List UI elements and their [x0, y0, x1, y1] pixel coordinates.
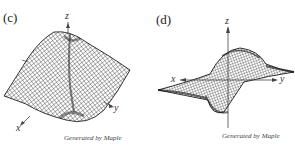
figure-caption: Generated by Maple	[222, 132, 280, 140]
figure-caption: Generated by Maple	[64, 134, 122, 142]
figure-c: (c) z x y Generated by Maple	[0, 0, 148, 146]
mesh-surface	[4, 32, 130, 122]
x-axis-label: x	[16, 122, 20, 133]
surface-plot-c	[0, 0, 148, 146]
x-arrow-icon	[180, 78, 186, 82]
y-axis-label: y	[280, 73, 284, 84]
z-arrow-icon	[66, 23, 70, 28]
y-arrow-icon	[272, 78, 278, 82]
x-axis-label: x	[171, 73, 175, 84]
z-axis-label: z	[225, 15, 229, 26]
y-axis-label: y	[114, 102, 118, 113]
figure-d: (d) z x y Generated by Maple	[148, 0, 295, 146]
z-axis-label: z	[65, 10, 69, 21]
z-arrow-icon	[226, 26, 230, 33]
